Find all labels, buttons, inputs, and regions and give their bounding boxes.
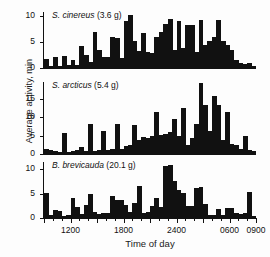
x-tick-label: 0900 — [247, 225, 266, 235]
panel0-label: S. cinereus (3.6 g) — [52, 10, 121, 20]
x-tick-minor — [132, 218, 133, 221]
x-tick-minor — [247, 218, 248, 221]
x-tick-minor — [168, 218, 169, 221]
x-tick-minor — [212, 218, 213, 221]
x-tick-label: 1800 — [114, 225, 133, 235]
panel0-bars — [44, 12, 256, 68]
y-tick-label: 10 — [26, 10, 35, 20]
bar — [252, 151, 256, 154]
x-tick-major — [177, 218, 178, 223]
panel1-species: S. arcticus — [52, 80, 92, 90]
x-tick-major — [71, 218, 72, 223]
x-tick-major — [97, 218, 98, 223]
x-tick-major — [44, 218, 45, 223]
y-tick-label: 0 — [30, 62, 35, 72]
y-tick: 10 — [40, 117, 44, 118]
panel1-plot-area — [44, 82, 256, 154]
x-tick-label: 2400 — [167, 225, 186, 235]
y-tick: 10 — [40, 16, 44, 17]
y-tick-label: 0 — [30, 212, 35, 222]
panel-s-cinereus: 0510 S. cinereus (3.6 g) — [44, 12, 256, 68]
x-tick-label: 0600 — [220, 225, 239, 235]
y-tick: 15 — [40, 99, 44, 100]
x-tick-minor — [115, 218, 116, 221]
x-axis-title: Time of day — [44, 238, 256, 249]
y-tick-label: 10 — [26, 111, 35, 121]
y-tick: 5 — [40, 194, 44, 195]
y-tick-label: 10 — [26, 163, 35, 173]
y-tick: 0 — [40, 154, 44, 155]
y-tick: 0 — [40, 68, 44, 69]
x-tick-minor — [141, 218, 142, 221]
panel2-label: B. brevicauda (20.1 g) — [52, 160, 136, 170]
x-tick-major — [256, 218, 257, 223]
x-tick-minor — [185, 218, 186, 221]
panel0-x-axis — [43, 68, 256, 69]
x-tick-minor — [88, 218, 89, 221]
panel0-mass: (3.6 g) — [97, 10, 122, 20]
y-tick-label: 5 — [30, 188, 35, 198]
x-tick-minor — [159, 218, 160, 221]
y-tick-label: 15 — [26, 93, 35, 103]
panel2-plot-area — [44, 162, 256, 218]
panel1-bars — [44, 82, 256, 154]
x-tick-minor — [221, 218, 222, 221]
bar — [252, 66, 256, 68]
x-tick-major — [203, 218, 204, 223]
y-tick: 5 — [40, 136, 44, 137]
y-tick-label: 5 — [30, 130, 35, 140]
panel0-plot-area — [44, 12, 256, 68]
panel-s-arcticus: 051015 S. arcticus (5.4 g) — [44, 82, 256, 154]
panel2-species: B. brevicauda — [52, 160, 104, 170]
y-tick-label: 0 — [30, 148, 35, 158]
panel0-species: S. cinereus — [52, 10, 95, 20]
x-tick-major — [150, 218, 151, 223]
bar — [88, 124, 93, 154]
panel1-label: S. arcticus (5.4 g) — [52, 80, 119, 90]
x-tick-major — [230, 218, 231, 223]
x-tick-minor — [79, 218, 80, 221]
x-tick-minor — [106, 218, 107, 221]
y-tick: 10 — [40, 169, 44, 170]
x-tick-minor — [62, 218, 63, 221]
figure-shrew-activity: Average activity, min 0510 S. cinereus (… — [0, 0, 270, 257]
panel1-x-axis — [43, 154, 256, 155]
x-tick-minor — [53, 218, 54, 221]
panel2-bars — [44, 162, 256, 218]
panel2-mass: (20.1 g) — [106, 160, 135, 170]
bar — [247, 192, 252, 218]
x-tick-minor — [194, 218, 195, 221]
x-tick-major — [124, 218, 125, 223]
y-tick-label: 5 — [30, 36, 35, 46]
panel1-mass: (5.4 g) — [94, 80, 119, 90]
x-tick-label: 1200 — [61, 225, 80, 235]
y-tick: 5 — [40, 42, 44, 43]
x-tick-minor — [238, 218, 239, 221]
panel-b-brevicauda: 0510 12001800240006000900 B. brevicauda … — [44, 162, 256, 218]
